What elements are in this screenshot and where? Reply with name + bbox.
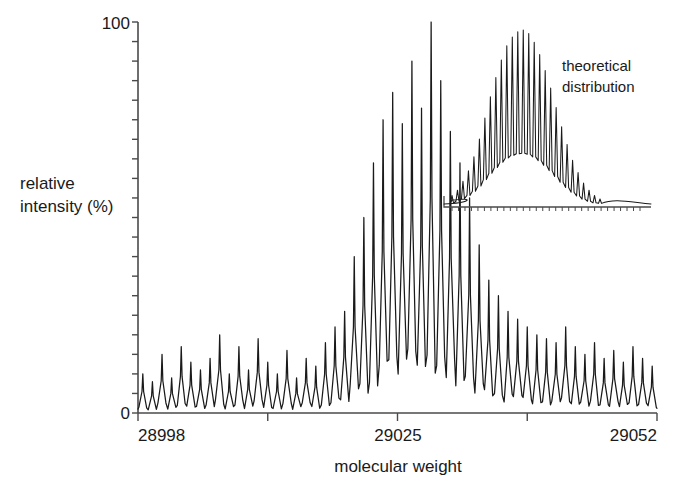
inset-axis-line [444,196,651,207]
y-axis-ticks [132,22,138,413]
y-axis-label-line2: intensity (%) [20,197,114,216]
y-axis-label-line1: relative [20,174,75,193]
y-axis: 100 0 relative intensity (%) [20,14,138,423]
figure-canvas: 100 0 relative intensity (%) 28998 29025… [0,0,698,486]
inset-theoretical-distribution: theoretical distribution [444,30,651,211]
x-axis-max-tick-label: 29052 [610,426,657,445]
inset-label-line2: distribution [562,78,635,95]
x-axis-mid-tick-label: 29025 [374,426,421,445]
inset-label-line1: theoretical [562,57,631,74]
y-axis-min-tick-label: 0 [121,404,130,423]
x-axis: 28998 29025 29052 molecular weight [138,413,657,476]
x-axis-min-tick-label: 28998 [138,426,185,445]
y-axis-max-tick-label: 100 [102,14,130,33]
mass-spectrum-figure: 100 0 relative intensity (%) 28998 29025… [0,0,698,486]
x-axis-label: molecular weight [334,457,462,476]
x-axis-ticks [138,413,657,421]
